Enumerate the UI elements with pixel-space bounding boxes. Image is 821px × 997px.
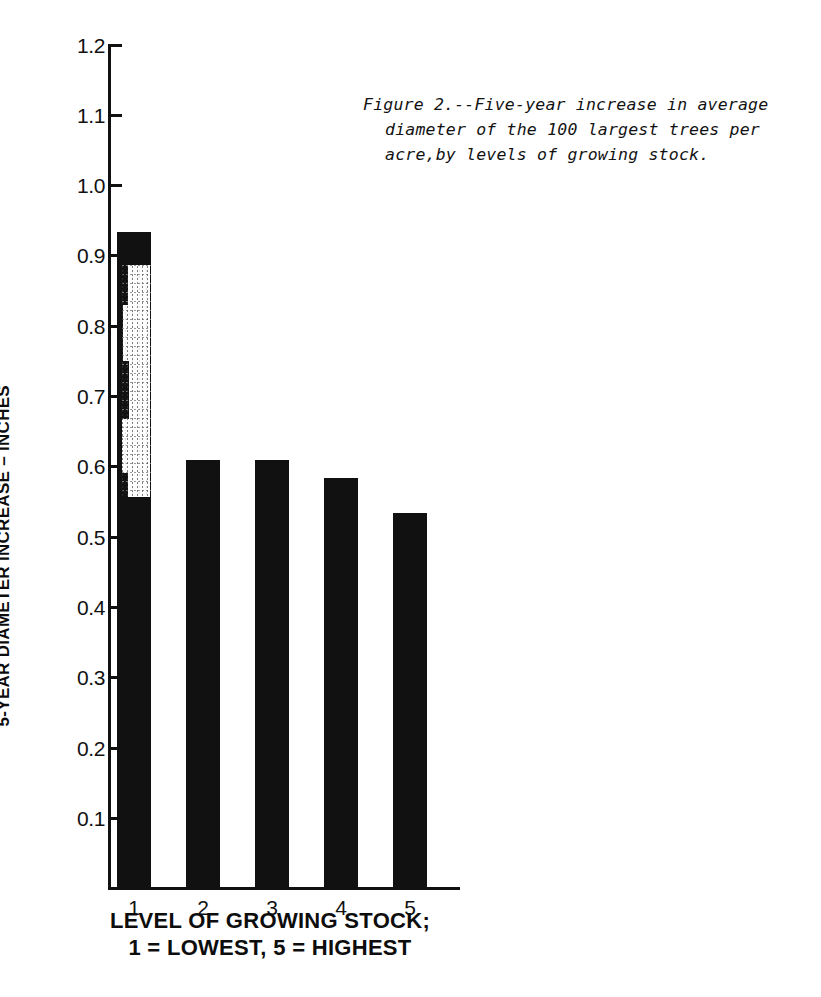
plot-area: 1.2 1.1 1.0 0.9 0.8 0.7 0.6 0.5 0.4 0.3 bbox=[108, 44, 460, 890]
y-tick-label-0.7: 0.7 bbox=[77, 385, 105, 409]
y-tick-label-0.5: 0.5 bbox=[77, 526, 105, 550]
x-axis-line bbox=[108, 887, 460, 890]
bar-level-4 bbox=[324, 478, 358, 888]
bar-level-3 bbox=[255, 460, 289, 887]
bar-level-2 bbox=[186, 460, 220, 887]
y-tick-label-0.8: 0.8 bbox=[77, 315, 105, 339]
x-axis-title: LEVEL OF GROWING STOCK; 1 = LOWEST, 5 = … bbox=[60, 908, 480, 962]
y-axis-title: 5-YEAR DIAMETER INCREASE – INCHES bbox=[0, 385, 14, 726]
y-tick-label-0.1: 0.1 bbox=[77, 807, 105, 831]
y-tick-1.2: 1.2 bbox=[111, 44, 122, 47]
y-tick-label-1.0: 1.0 bbox=[77, 174, 105, 198]
y-tick-label-0.2: 0.2 bbox=[77, 737, 105, 761]
y-tick-label-0.4: 0.4 bbox=[77, 596, 105, 620]
y-tick-1.1: 1.1 bbox=[111, 114, 122, 117]
bar-level-1 bbox=[117, 232, 151, 887]
y-tick-label-0.6: 0.6 bbox=[77, 455, 105, 479]
y-tick-1.0: 1.0 bbox=[111, 184, 122, 187]
x-axis-title-line-1: LEVEL OF GROWING STOCK; bbox=[110, 908, 430, 933]
x-axis-title-line-2: 1 = LOWEST, 5 = HIGHEST bbox=[60, 935, 480, 962]
bar-level-5 bbox=[393, 513, 427, 887]
scan-artifact bbox=[120, 265, 151, 497]
y-tick-label-0.9: 0.9 bbox=[77, 244, 105, 268]
y-tick-label-0.3: 0.3 bbox=[77, 666, 105, 690]
figure-root: Figure 2.--Five-year increase in average… bbox=[0, 0, 821, 997]
y-tick-label-1.1: 1.1 bbox=[77, 104, 105, 128]
y-tick-label-1.2: 1.2 bbox=[77, 34, 105, 58]
